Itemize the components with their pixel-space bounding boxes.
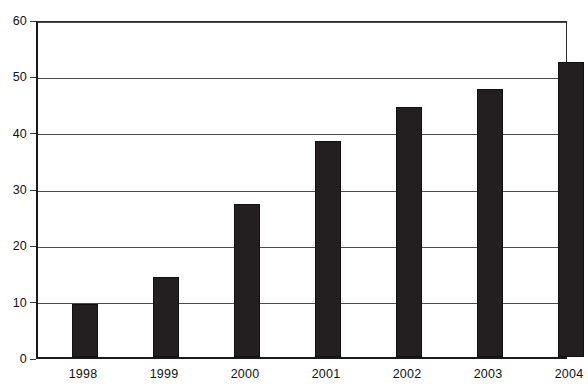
x-tick-label: 2002	[377, 368, 437, 381]
y-tick-mark	[30, 190, 36, 191]
bar	[72, 304, 98, 357]
y-tick-label: 50	[0, 71, 27, 84]
x-tick-label: 2001	[296, 368, 356, 381]
x-tick-label: 1998	[53, 368, 113, 381]
gridline	[38, 22, 566, 23]
bar	[234, 204, 260, 357]
y-tick-mark	[30, 21, 36, 22]
y-tick-mark	[30, 302, 36, 303]
y-tick-label: 10	[0, 297, 27, 310]
bar	[558, 62, 584, 357]
y-tick-label: 0	[0, 353, 27, 366]
y-tick-mark	[30, 133, 36, 134]
y-tick-mark	[30, 246, 36, 247]
bar	[153, 277, 179, 357]
y-tick-label: 20	[0, 240, 27, 253]
bar	[477, 89, 503, 357]
bar	[315, 141, 341, 357]
x-tick-label: 1999	[134, 368, 194, 381]
y-tick-label: 30	[0, 184, 27, 197]
x-tick-label: 2000	[215, 368, 275, 381]
y-tick-mark	[30, 77, 36, 78]
y-axis-label	[0, 0, 1, 1]
gridline	[38, 78, 566, 79]
x-tick-label: 2003	[458, 368, 518, 381]
bar	[396, 107, 422, 357]
x-axis-label	[0, 0, 1, 1]
x-tick-label: 2004	[539, 368, 588, 381]
y-tick-mark	[30, 359, 36, 360]
chart-title	[0, 0, 1, 1]
plot-area	[36, 21, 567, 359]
y-tick-label: 40	[0, 128, 27, 141]
y-tick-label: 60	[0, 15, 27, 28]
